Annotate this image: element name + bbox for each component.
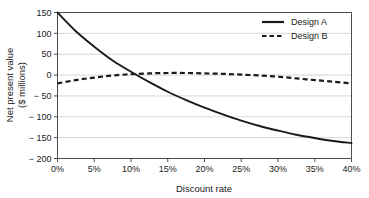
y-tick-label--200: − 200 — [29, 154, 52, 164]
legend-label-design-a: Design A — [291, 17, 327, 27]
x-tick-label-35%: 35% — [306, 164, 324, 174]
x-tick-label-40%: 40% — [342, 164, 360, 174]
y-tick-label-150: 150 — [36, 8, 51, 18]
x-tick-label-0%: 0% — [51, 164, 64, 174]
y-axis-title-line2: ($ millions) — [16, 62, 27, 108]
npv-line-chart: 0%5%10%15%20%25%30%35%40% 150100500− 50−… — [0, 0, 369, 198]
x-axis-title: Discount rate — [176, 183, 232, 194]
x-tick-label-25%: 25% — [232, 164, 250, 174]
legend-label-design-b: Design B — [291, 31, 328, 41]
x-tick-label-30%: 30% — [269, 164, 287, 174]
x-tick-label-5%: 5% — [88, 164, 101, 174]
y-axis-title-line1: Net present value — [4, 48, 15, 122]
chart-container: 0%5%10%15%20%25%30%35%40% 150100500− 50−… — [0, 0, 369, 198]
y-tick-label--100: − 100 — [29, 112, 52, 122]
x-tick-label-15%: 15% — [159, 164, 177, 174]
y-tick-label-50: 50 — [41, 49, 51, 59]
x-axis-tick-labels: 0%5%10%15%20%25%30%35%40% — [51, 164, 361, 174]
x-tick-label-10%: 10% — [122, 164, 140, 174]
y-tick-label-0: 0 — [46, 70, 51, 80]
y-tick-label--50: − 50 — [34, 91, 52, 101]
y-tick-label-100: 100 — [36, 29, 51, 39]
x-tick-label-20%: 20% — [195, 164, 213, 174]
y-tick-label--150: − 150 — [29, 133, 52, 143]
